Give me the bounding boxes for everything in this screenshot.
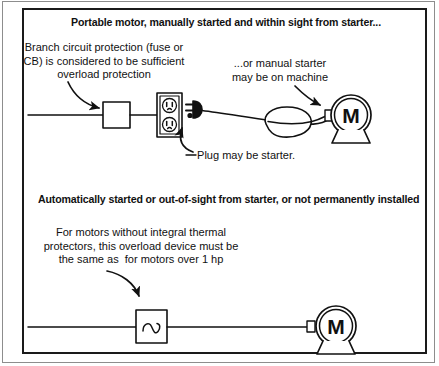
arrow-to-branch-protection [68, 82, 99, 108]
arrow-to-manual-starter [295, 86, 320, 105]
receptacle-outlet-upper [163, 99, 177, 113]
branch-circuit-protection-box [103, 102, 130, 128]
motor-protection-diagram: Portable motor, manually started and wit… [0, 0, 439, 366]
motor-base-bottom [317, 341, 355, 354]
motor-terminal-box-bottom [307, 321, 315, 332]
circuit-drawings: M M [0, 0, 439, 366]
motor-label-top: M [342, 104, 360, 127]
motor-base-top [332, 130, 370, 143]
arrow-to-overload-relay [107, 271, 139, 296]
motor-label-bottom: M [327, 315, 345, 338]
receptacle-outlet-lower [163, 118, 177, 132]
plug-ground-pin [188, 114, 192, 118]
